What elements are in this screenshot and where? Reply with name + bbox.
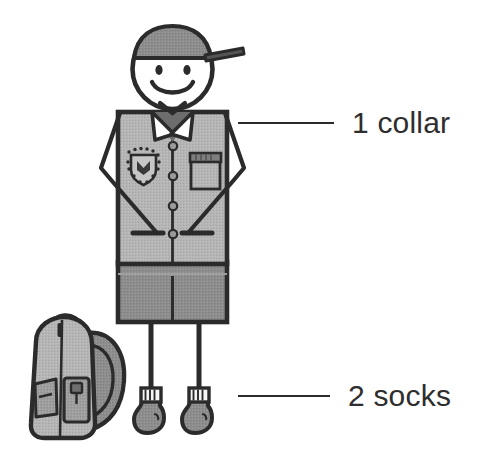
- backpack-buckle: [71, 383, 82, 393]
- shorts: [118, 262, 227, 322]
- backpack: [31, 315, 124, 438]
- callout-socks-label: 2 socks: [348, 381, 451, 411]
- sock-left-cuff: [141, 388, 161, 402]
- socks: [134, 388, 212, 433]
- callout-collar: 1 collar: [238, 108, 450, 138]
- sock-right: [182, 388, 212, 433]
- callout-collar-leader-line: [238, 122, 334, 124]
- cap: [134, 26, 211, 58]
- head: [133, 26, 245, 113]
- sock-right-cuff: [189, 388, 209, 402]
- callout-socks: 2 socks: [238, 381, 451, 411]
- callout-collar-label: 1 collar: [352, 108, 450, 138]
- backpack-side-pocket: [35, 379, 57, 417]
- diagram-canvas: 1 collar 2 socks: [0, 0, 482, 463]
- backpack-zip-pull: [58, 323, 63, 337]
- callout-socks-leader-line: [238, 395, 330, 397]
- sock-left: [134, 388, 164, 433]
- collar: [152, 112, 193, 142]
